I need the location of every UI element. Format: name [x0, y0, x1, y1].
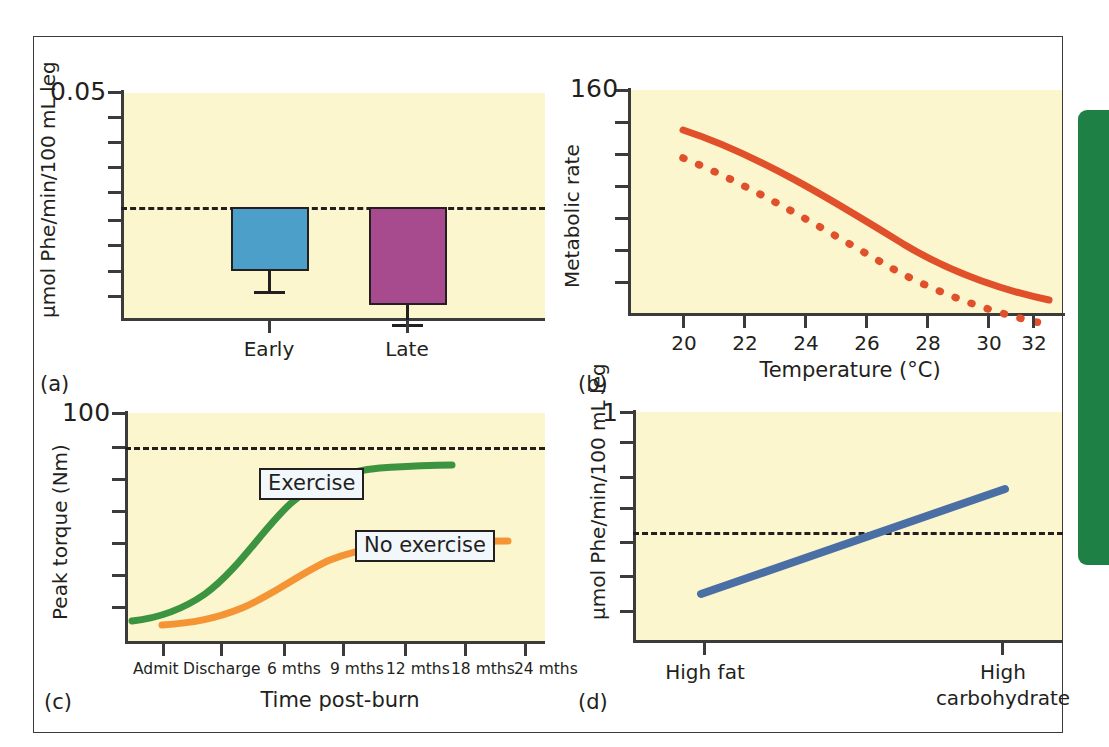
panel-d-x-tick-label-high-fat: High fat: [635, 660, 775, 684]
panel-d-x-tick-label-carbohydrate: carbohydrate: [933, 686, 1073, 710]
panel-d-line: [0, 0, 1109, 747]
panel-d-x-tick: [1001, 642, 1004, 655]
panel-d-x-tick-label-high: High: [933, 660, 1073, 684]
panel-d-x-tick: [703, 642, 706, 655]
panel-d-id: (d): [578, 690, 608, 714]
